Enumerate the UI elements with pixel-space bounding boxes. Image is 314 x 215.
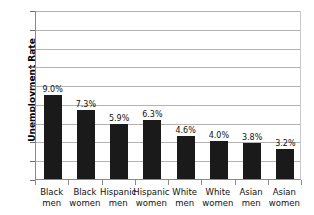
- gridline: [36, 49, 300, 50]
- bar: [243, 143, 261, 179]
- x-axis-tick-mark: [135, 180, 136, 185]
- gridline: [36, 67, 300, 68]
- gridline: [36, 11, 300, 12]
- bar: [77, 110, 95, 179]
- bar-value-label: 7.3%: [68, 100, 104, 109]
- bar: [110, 124, 128, 179]
- bar-value-label: 9.0%: [35, 85, 71, 94]
- bar-value-label: 6.3%: [134, 110, 170, 119]
- x-axis-label-line: Asian: [264, 187, 304, 198]
- x-axis-tick-mark: [301, 180, 302, 185]
- x-axis-tick-mark: [268, 180, 269, 185]
- bar-value-label: 3.8%: [234, 133, 270, 142]
- bar-value-label: 5.9%: [101, 114, 137, 123]
- x-axis-label-line: women: [264, 198, 304, 209]
- gridline: [36, 30, 300, 31]
- x-axis-category-label: Asianwomen: [264, 187, 304, 209]
- x-axis-tick-mark: [102, 180, 103, 185]
- bar-value-label: 4.0%: [201, 131, 237, 140]
- x-axis-tick-mark: [68, 180, 69, 185]
- gridline: [36, 86, 300, 87]
- x-axis-tick-mark: [35, 180, 36, 185]
- x-axis-tick-mark: [201, 180, 202, 185]
- bar-chart: Unemployment Rate 024681012141618 9.0%7.…: [0, 0, 314, 215]
- bar: [210, 141, 228, 179]
- bar: [177, 136, 195, 179]
- gridline: [36, 124, 300, 125]
- bar: [143, 120, 161, 179]
- bar-value-label: 4.6%: [168, 126, 204, 135]
- plot-area: 9.0%7.3%5.9%6.3%4.6%4.0%3.8%3.2%: [35, 11, 301, 180]
- x-axis-tick-mark: [168, 180, 169, 185]
- bar-value-label: 3.2%: [267, 139, 303, 148]
- bar: [276, 149, 294, 179]
- bar: [44, 95, 62, 180]
- x-axis-tick-mark: [235, 180, 236, 185]
